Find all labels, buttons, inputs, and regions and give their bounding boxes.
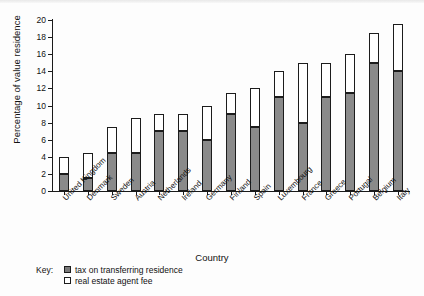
bar-segment-tax xyxy=(369,63,379,191)
bar-segment-tax xyxy=(393,71,403,191)
bar-luxembourg xyxy=(274,20,284,191)
legend-label-tax: tax on transferring residence xyxy=(75,265,183,275)
y-tick-label-10: 10 xyxy=(37,102,46,110)
bar-austria xyxy=(131,20,141,191)
bar-segment-tax xyxy=(274,97,284,191)
bar-segment-fee xyxy=(178,114,188,131)
legend-label-fee: real estate agent fee xyxy=(75,276,153,286)
legend-key-label: Key: xyxy=(36,265,53,275)
bar-segment-fee xyxy=(131,118,141,152)
legend-swatch-tax-icon xyxy=(64,266,71,273)
bar-segment-fee xyxy=(298,63,308,123)
legend-item-fee: real estate agent fee xyxy=(64,275,153,286)
y-tick-label-8: 8 xyxy=(41,119,46,127)
scan-artifact-band xyxy=(0,0,424,3)
bar-sweden xyxy=(107,20,117,191)
bar-germany xyxy=(202,20,212,191)
y-tick-label-16: 16 xyxy=(37,50,46,58)
bar-segment-tax xyxy=(154,131,164,191)
bar-segment-tax xyxy=(345,93,355,191)
bar-segment-tax xyxy=(321,97,331,191)
plot-area xyxy=(52,20,410,191)
y-tick-label-6: 6 xyxy=(41,136,46,144)
bar-segment-fee xyxy=(393,24,403,71)
bar-segment-fee xyxy=(345,54,355,92)
bar-segment-fee xyxy=(107,127,117,153)
bar-italy xyxy=(393,20,403,191)
y-tick-label-0: 0 xyxy=(41,187,46,195)
y-tick-label-4: 4 xyxy=(41,153,46,161)
bar-united-kingdom xyxy=(59,20,69,191)
y-tick-label-14: 14 xyxy=(37,67,46,75)
y-tick-label-20: 20 xyxy=(37,16,46,24)
bar-segment-fee xyxy=(59,157,69,174)
y-tick-label-2: 2 xyxy=(41,170,46,178)
bar-segment-fee xyxy=(154,114,164,131)
chart-figure: Percentage of value residence 0246810121… xyxy=(0,0,424,296)
y-tick-label-12: 12 xyxy=(37,84,46,92)
bar-finland xyxy=(226,20,236,191)
legend-item-tax: tax on transferring residence xyxy=(64,264,183,275)
bar-segment-fee xyxy=(250,88,260,126)
y-axis-title: Percentage of value residence xyxy=(11,0,22,160)
legend-swatch-fee-icon xyxy=(64,277,71,284)
x-axis-title: Country xyxy=(0,252,424,263)
bar-segment-fee xyxy=(226,93,236,114)
bar-portugal xyxy=(345,20,355,191)
bar-segment-fee xyxy=(369,33,379,63)
bar-belgium xyxy=(369,20,379,191)
bar-segment-fee xyxy=(202,106,212,140)
bar-spain xyxy=(250,20,260,191)
bar-segment-tax xyxy=(202,140,212,191)
bar-segment-fee xyxy=(274,71,284,97)
bar-netherlands xyxy=(154,20,164,191)
y-tick-label-18: 18 xyxy=(37,33,46,41)
y-tick-0 xyxy=(48,191,52,192)
bar-greece xyxy=(321,20,331,191)
bar-segment-fee xyxy=(321,63,331,97)
